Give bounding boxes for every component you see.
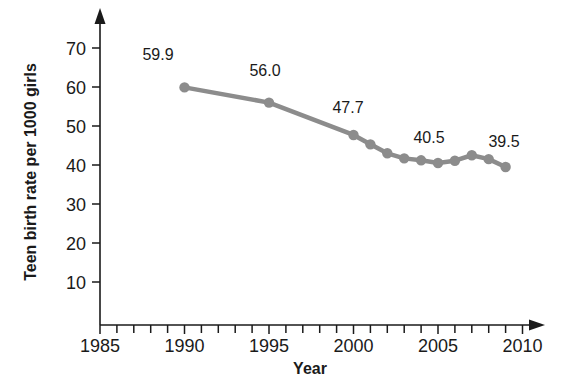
x-tick-label-2010: 2010 — [502, 336, 542, 356]
y-axis-arrow-icon — [95, 8, 106, 24]
y-tick-label-70: 70 — [66, 39, 86, 59]
data-point-2004 — [416, 155, 426, 165]
data-label-1995: 56.0 — [249, 62, 280, 79]
data-point-2003 — [399, 153, 409, 163]
line-chart: 70 60 50 40 30 20 10 — [0, 0, 561, 382]
data-point-1990 — [179, 82, 189, 92]
data-point-2008 — [484, 154, 494, 164]
y-tick-label-60: 60 — [66, 78, 86, 98]
y-tick-label-10: 10 — [66, 273, 86, 293]
data-point-2000 — [348, 130, 358, 140]
y-tick-label-40: 40 — [66, 156, 86, 176]
data-point-2001 — [365, 139, 375, 149]
data-point-2009 — [500, 162, 510, 172]
y-axis-title: Teen birth rate per 1000 girls — [22, 63, 39, 281]
data-point-1995 — [264, 97, 274, 107]
x-axis — [100, 320, 545, 331]
x-axis-tick-labels: 1985 1990 1995 2000 2005 2010 — [80, 336, 543, 356]
x-axis-ticks — [100, 325, 523, 334]
data-point-2007 — [467, 150, 477, 160]
x-tick-label-2000: 2000 — [333, 336, 373, 356]
x-tick-label-2005: 2005 — [418, 336, 458, 356]
data-label-1990: 59.9 — [142, 46, 173, 63]
data-point-labels: 59.9 56.0 47.7 40.5 39.5 — [142, 46, 519, 150]
x-tick-label-1990: 1990 — [164, 336, 204, 356]
data-label-2000: 47.7 — [332, 99, 363, 116]
data-label-2005: 40.5 — [413, 129, 444, 146]
y-tick-label-30: 30 — [66, 195, 86, 215]
data-point-2006 — [450, 156, 460, 166]
x-axis-title: Year — [293, 360, 327, 377]
x-axis-arrow-icon — [529, 320, 545, 331]
data-point-2002 — [382, 148, 392, 158]
data-point-2005 — [433, 158, 443, 168]
data-label-2009: 39.5 — [488, 133, 519, 150]
x-tick-label-1985: 1985 — [80, 336, 120, 356]
chart-container: 70 60 50 40 30 20 10 — [0, 0, 561, 382]
y-tick-label-50: 50 — [66, 117, 86, 137]
y-tick-label-20: 20 — [66, 234, 86, 254]
y-axis-ticks — [92, 48, 100, 282]
y-axis — [95, 8, 106, 325]
y-axis-tick-labels: 70 60 50 40 30 20 10 — [66, 39, 86, 293]
x-tick-label-1995: 1995 — [249, 336, 289, 356]
